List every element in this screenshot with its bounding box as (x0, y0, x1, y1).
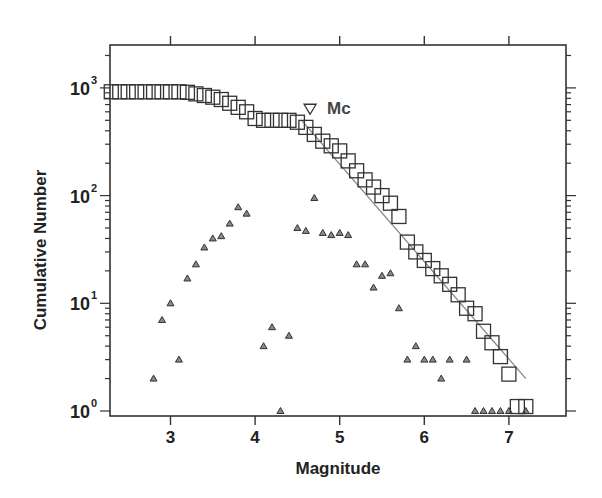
triangle-point (412, 343, 419, 349)
chart: 34567100101102103 Mc Magnitude Cumulativ… (0, 0, 602, 498)
square-point (485, 336, 499, 350)
triangle-point (192, 261, 199, 267)
triangle-point (387, 270, 394, 276)
triangle-point (311, 194, 318, 200)
triangle-point (269, 324, 276, 330)
y-tick-exponent: 0 (91, 397, 97, 409)
y-tick-label: 10 (70, 294, 90, 314)
triangle-point (243, 210, 250, 216)
y-axis-title: Cumulative Number (31, 169, 50, 330)
triangle-point (404, 356, 411, 362)
y-tick-exponent: 1 (91, 289, 97, 301)
triangle-point (497, 408, 504, 414)
triangle-point (370, 284, 377, 290)
triangle-point (277, 408, 284, 414)
triangle-point (446, 356, 453, 362)
square-point (519, 400, 533, 414)
triangle-point (302, 227, 309, 233)
x-tick-label: 6 (420, 428, 429, 447)
triangle-point (294, 225, 301, 231)
triangle-point (362, 261, 369, 267)
triangle-point (226, 220, 233, 226)
triangle-point (429, 356, 436, 362)
x-tick-label: 5 (335, 428, 344, 447)
square-point (502, 367, 516, 381)
triangle-point (463, 356, 470, 362)
x-tick-label: 4 (250, 428, 260, 447)
x-axis-title: Magnitude (296, 459, 381, 478)
x-tick-label: 7 (504, 428, 513, 447)
mc-label: Mc (327, 99, 351, 118)
triangle-point (167, 300, 174, 306)
triangle-point (235, 204, 242, 210)
y-tick-label: 10 (70, 187, 90, 207)
square-point (451, 288, 465, 302)
y-tick-label: 10 (70, 79, 90, 99)
triangle-point (260, 343, 267, 349)
triangle-point (218, 233, 225, 239)
triangle-point (379, 272, 386, 278)
square-point (383, 196, 397, 210)
triangle-point (488, 408, 495, 414)
square-point (392, 209, 406, 223)
triangle-point (184, 275, 191, 281)
triangle-point (319, 229, 326, 235)
triangle-point (285, 332, 292, 338)
triangle-point (159, 316, 166, 322)
triangle-point (175, 356, 182, 362)
x-tick-label: 3 (166, 428, 175, 447)
y-tick-label: 10 (70, 402, 90, 422)
square-point (468, 307, 482, 321)
triangle-point (345, 232, 352, 238)
square-series (104, 85, 533, 414)
triangle-point (438, 375, 445, 381)
triangle-point (395, 305, 402, 311)
triangle-point (421, 356, 428, 362)
y-tick-exponent: 2 (91, 182, 97, 194)
square-point (493, 350, 507, 364)
triangle-point (472, 408, 479, 414)
triangle-point (209, 235, 216, 241)
triangle-point (201, 244, 208, 250)
triangle-point (150, 375, 157, 381)
triangle-point (480, 408, 487, 414)
triangle-point (328, 232, 335, 238)
triangle-point (353, 261, 360, 267)
mc-marker-icon (304, 104, 316, 114)
y-tick-exponent: 3 (91, 74, 97, 86)
mc-annotation: Mc (304, 99, 351, 118)
triangle-point (336, 229, 343, 235)
